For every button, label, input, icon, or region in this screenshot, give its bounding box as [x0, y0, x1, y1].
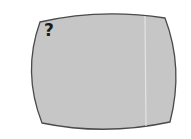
tv-screen-shape [0, 0, 191, 139]
question-mark-icon: ? [44, 22, 54, 39]
